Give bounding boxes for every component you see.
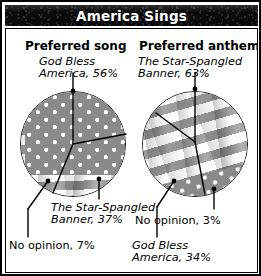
- right-label-star-spangled-line2: Banner, 63%: [138, 68, 210, 81]
- flag-canton: [25, 91, 126, 175]
- left-pie-chart: [20, 91, 126, 197]
- left-chart-heading: Preferred song: [25, 39, 126, 53]
- left-label-star-spangled-line2: Banner, 37%: [51, 214, 123, 227]
- chart-body: Preferred song God Bless America, 56% Th…: [5, 28, 258, 273]
- right-pie-flag-image: [142, 91, 248, 197]
- chart-title-bar: America Sings: [5, 5, 258, 26]
- right-chart-heading: Preferred anthem: [139, 39, 258, 53]
- right-label-god-bless-america-line2: America, 34%: [132, 252, 211, 265]
- left-label-god-bless-america-line2: America, 56%: [39, 68, 118, 81]
- left-label-no-opinion: No opinion, 7%: [9, 240, 95, 253]
- chart-figure: America Sings Preferred song God Bless A…: [0, 0, 261, 276]
- right-pie-chart: [142, 91, 248, 197]
- right-label-no-opinion: No opinion, 3%: [135, 215, 221, 228]
- left-pie-flag-image: [20, 91, 126, 197]
- flag-stars: [25, 91, 126, 175]
- chart-title: America Sings: [5, 5, 258, 26]
